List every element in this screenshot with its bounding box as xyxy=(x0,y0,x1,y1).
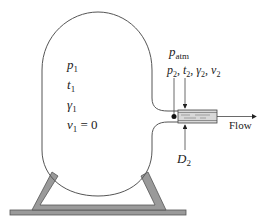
exit-state-label: p2, t2, γ2, v2 xyxy=(166,63,220,79)
atmospheric-pressure-label: patm xyxy=(168,44,189,61)
nozzle-tube xyxy=(178,110,217,123)
tank-nozzle-diagram: p1 t1 γ1 v1 = 0 patm p2, t2, γ2, v2 D2 F… xyxy=(0,0,268,222)
nozzle-diameter-label: D2 xyxy=(176,151,191,168)
flow-label: Flow xyxy=(229,119,252,131)
tank-temperature-label: t1 xyxy=(67,77,75,94)
exit-point-marker xyxy=(172,114,177,119)
tank-pressure-label: p1 xyxy=(66,57,78,74)
nozzle xyxy=(172,110,218,123)
tank-specific-weight-label: γ1 xyxy=(67,97,77,114)
tank-outline xyxy=(42,12,178,196)
tank-velocity-label: v1 = 0 xyxy=(67,117,98,134)
stand-base-plate xyxy=(10,210,186,215)
tank-stand xyxy=(10,172,186,215)
